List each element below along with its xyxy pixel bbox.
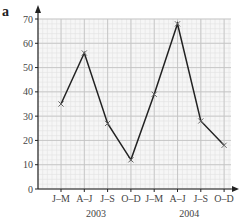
y-tick-label: 10 bbox=[23, 159, 33, 170]
y-tick-label: 40 bbox=[23, 86, 33, 97]
y-tick-label: 20 bbox=[23, 135, 33, 146]
x-tick-label: J–S bbox=[100, 193, 114, 204]
minor-grid bbox=[38, 19, 231, 189]
y-axis-arrow-icon bbox=[35, 5, 41, 13]
year-label: 2003 bbox=[86, 208, 106, 219]
x-tick-label: O–D bbox=[214, 193, 233, 204]
x-tick-label: J–M bbox=[145, 193, 163, 204]
line-chart: 010203040506070 J–MA–JJ–SO–DJ–MA–JJ–SO–D… bbox=[0, 0, 240, 221]
y-tick-label: 30 bbox=[23, 111, 33, 122]
x-tick-label: A–J bbox=[76, 193, 92, 204]
x-tick-label: J–S bbox=[194, 193, 208, 204]
year-label: 2004 bbox=[179, 208, 199, 219]
y-tick-label: 0 bbox=[28, 184, 33, 195]
y-axis-ticks: 010203040506070 bbox=[23, 14, 38, 195]
year-labels: 20032004 bbox=[86, 208, 199, 219]
plot-area bbox=[38, 19, 231, 189]
y-tick-label: 60 bbox=[23, 38, 33, 49]
y-tick-label: 70 bbox=[23, 14, 33, 25]
x-tick-label: A–J bbox=[169, 193, 185, 204]
x-axis-ticks: J–MA–JJ–SO–DJ–MA–JJ–SO–D bbox=[52, 189, 234, 204]
y-tick-label: 50 bbox=[23, 62, 33, 73]
x-tick-label: J–M bbox=[52, 193, 70, 204]
x-axis-arrow-icon bbox=[232, 186, 239, 192]
x-tick-label: O–D bbox=[121, 193, 140, 204]
